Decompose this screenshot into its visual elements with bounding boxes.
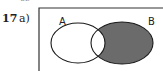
venn-diagram: A B xyxy=(0,0,163,71)
set-a-label: A xyxy=(59,16,66,27)
set-b-label: B xyxy=(148,16,155,27)
